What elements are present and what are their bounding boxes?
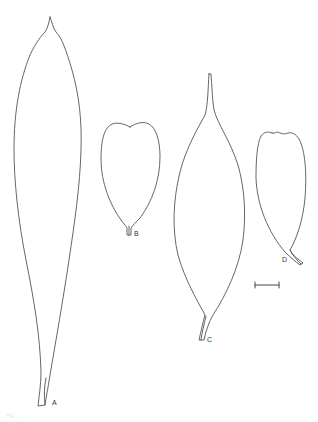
leaf-c-outline: [174, 74, 245, 340]
leaf-b-label: B: [134, 230, 139, 237]
scale-bar: [255, 282, 279, 288]
figure-caption: Fig. ...: [6, 412, 20, 418]
leaf-d-outline: [256, 132, 306, 265]
figure-page: A B C D Fig. ...: [0, 0, 318, 422]
leaf-d-label: D: [282, 256, 287, 263]
leaf-a-label: A: [52, 399, 57, 406]
leaf-c-label: C: [207, 336, 212, 343]
leaf-a-outline: [14, 17, 81, 406]
leaf-b-outline: [101, 123, 160, 235]
leaf-drawing: [0, 0, 318, 422]
